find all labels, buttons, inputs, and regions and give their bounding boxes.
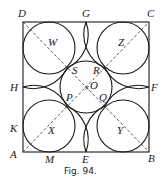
label-x: X (47, 124, 56, 136)
figure-caption: Fig. 94. (64, 166, 97, 176)
label-o: O (90, 79, 98, 91)
circle-w (23, 22, 75, 74)
label-r: R (92, 64, 100, 76)
label-m: M (44, 153, 55, 165)
label-c: C (147, 7, 155, 19)
label-k: K (9, 122, 18, 134)
label-z: Z (118, 36, 125, 48)
circle-z (97, 22, 149, 74)
label-f: F (150, 81, 158, 93)
label-s: S (72, 64, 78, 76)
geometry-figure: × D C A B G E H F K M W Z X Y S R P Q O … (0, 0, 166, 182)
label-d: D (17, 7, 26, 19)
label-e: E (81, 153, 89, 165)
label-y: Y (117, 124, 125, 136)
label-a: A (9, 148, 17, 160)
label-g: G (82, 7, 90, 19)
label-b: B (148, 152, 155, 164)
center-mark: × (84, 84, 90, 92)
label-w: W (48, 36, 58, 48)
label-q: Q (99, 91, 107, 103)
label-p: P (65, 91, 73, 103)
label-h: H (9, 81, 19, 93)
